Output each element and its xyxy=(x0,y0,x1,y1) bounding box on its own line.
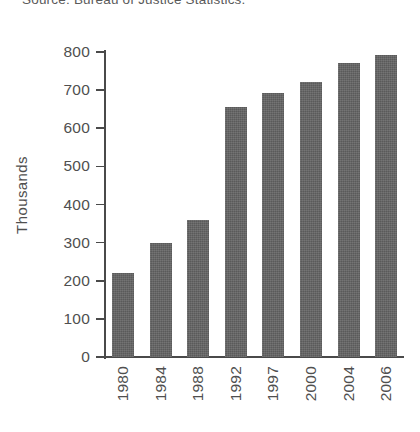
y-axis-tick-label-text: 400 xyxy=(30,196,90,214)
y-axis-title-label: Thousands xyxy=(13,156,30,234)
x-axis-tick-label-text: 2000 xyxy=(302,366,320,401)
x-axis-tick-label-text: 1984 xyxy=(152,366,170,401)
x-axis-tick-label: 2000 xyxy=(300,362,322,424)
x-axis-tick-label: 2004 xyxy=(338,362,360,424)
y-axis-tick xyxy=(96,356,104,358)
x-axis-tick-label: 1984 xyxy=(150,362,172,424)
x-axis-tick-label: 1988 xyxy=(187,362,209,424)
y-axis-tick xyxy=(96,166,104,168)
bar xyxy=(225,107,247,357)
bar xyxy=(112,273,134,357)
y-axis-tick-label-text: 200 xyxy=(30,272,90,290)
x-axis-tick-label: 1997 xyxy=(262,362,284,424)
bar xyxy=(300,82,322,357)
y-axis-title: Thousands xyxy=(10,130,32,260)
y-axis-tick-label-text: 600 xyxy=(30,119,90,137)
x-axis-tick-label-text: 2006 xyxy=(377,366,395,401)
y-axis-tick xyxy=(96,318,104,320)
bar xyxy=(187,220,209,357)
x-axis-tick-label-text: 2004 xyxy=(340,366,358,401)
x-axis-tick-label-text: 1988 xyxy=(189,366,207,401)
bar xyxy=(262,93,284,357)
y-axis-tick-label-text: 100 xyxy=(30,310,90,328)
y-axis-line xyxy=(104,50,106,359)
x-axis-tick-label-text: 1992 xyxy=(227,366,245,401)
y-axis-tick xyxy=(96,204,104,206)
x-axis-tick-label: 1992 xyxy=(225,362,247,424)
y-axis-tick-label-text: 800 xyxy=(30,43,90,61)
bar xyxy=(150,243,172,357)
y-axis-tick-label-text: 0 xyxy=(30,348,90,366)
x-axis-tick-label: 2006 xyxy=(375,362,397,424)
x-axis-tick-label-text: 1980 xyxy=(114,366,132,401)
y-axis-tick xyxy=(96,89,104,91)
y-axis-tick-label-text: 700 xyxy=(30,81,90,99)
x-axis-tick-label-text: 1997 xyxy=(264,366,282,401)
bar xyxy=(338,63,360,357)
bar xyxy=(375,55,397,357)
y-axis-tick xyxy=(96,280,104,282)
y-axis-tick xyxy=(96,242,104,244)
x-axis-tick-label: 1980 xyxy=(112,362,134,424)
y-axis-tick xyxy=(96,127,104,129)
y-axis-tick-label-text: 500 xyxy=(30,157,90,175)
y-axis-tick-label-text: 300 xyxy=(30,234,90,252)
bar-chart: Thousands 0100200300400500600700800 1980… xyxy=(0,0,420,432)
y-axis-tick xyxy=(96,51,104,53)
